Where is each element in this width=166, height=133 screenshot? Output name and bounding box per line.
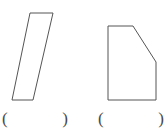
answer-slot-pentagon[interactable]: ( )	[98, 104, 164, 133]
close-paren-right: )	[158, 110, 164, 127]
open-paren-left: (	[2, 110, 8, 127]
shape-worksheet: ( ) ( )	[0, 0, 166, 133]
answer-slot-quadrilateral[interactable]: ( )	[2, 104, 68, 133]
close-paren-left: )	[62, 110, 68, 127]
beveled-pentagon-shape	[108, 26, 156, 100]
slanted-quadrilateral-shape	[12, 13, 53, 100]
open-paren-right: (	[98, 110, 104, 127]
answer-row: ( ) ( )	[0, 104, 166, 133]
